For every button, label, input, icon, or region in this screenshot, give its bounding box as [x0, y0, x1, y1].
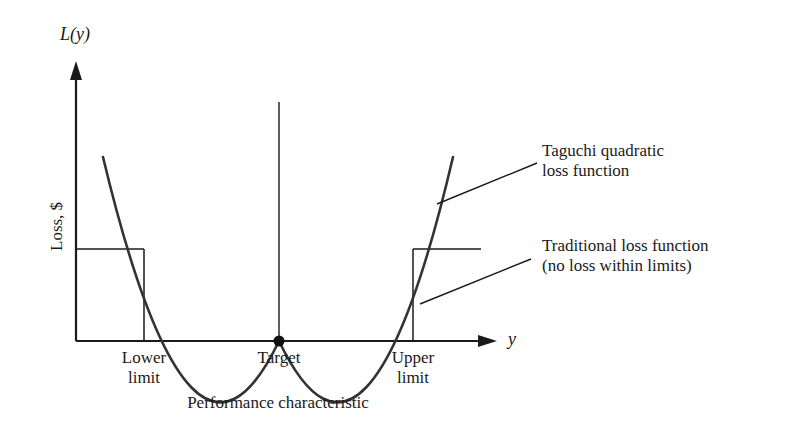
taguchi-line2: loss function	[542, 161, 664, 181]
upper-limit-line1: Upper	[392, 348, 434, 368]
x-axis-title: Performance characteristic	[187, 393, 369, 413]
y-axis-title: Loss, $	[47, 202, 67, 251]
taguchi-line1: Taguchi quadratic	[542, 141, 664, 161]
y-axis-arrow-icon	[70, 61, 82, 80]
lower-limit-line2: limit	[122, 368, 166, 388]
traditional-leader-line	[420, 259, 531, 304]
lower-limit-line1: Lower	[122, 348, 166, 368]
upper-limit-line2: limit	[392, 368, 434, 388]
traditional-line1: Traditional loss function	[542, 236, 709, 256]
x-axis-arrow-icon	[478, 335, 497, 347]
target-label: Target	[258, 348, 301, 368]
x-axis-label: y	[508, 329, 516, 349]
taguchi-leader-line	[437, 163, 537, 204]
lower-limit-label: Lower limit	[122, 348, 166, 388]
traditional-annotation: Traditional loss function (no loss withi…	[542, 236, 709, 276]
y-axis-label: L(y)	[60, 24, 90, 44]
target-point	[274, 336, 285, 347]
traditional-line2: (no loss within limits)	[542, 256, 709, 276]
upper-limit-label: Upper limit	[392, 348, 434, 388]
taguchi-annotation: Taguchi quadratic loss function	[542, 141, 664, 181]
